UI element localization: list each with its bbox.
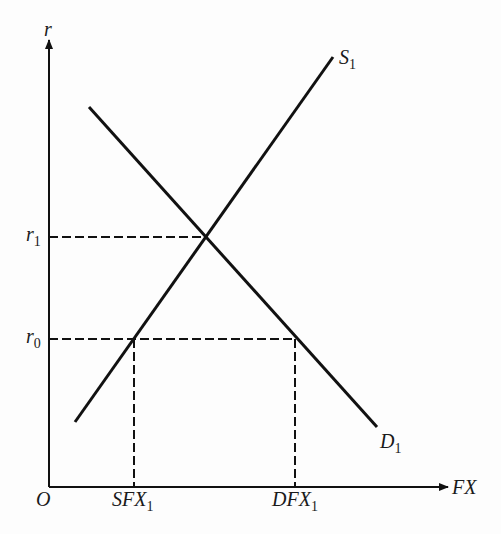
dfx1-label: DFX1 — [271, 488, 318, 514]
demand-curve-d1 — [89, 107, 377, 427]
y-axis-label: r — [44, 18, 52, 40]
r0-label: r0 — [26, 325, 41, 351]
fx-market-diagram: r FX O S1 D1 r1 r0 SFX1 DFX1 — [0, 0, 501, 534]
x-axis-label: FX — [451, 476, 477, 498]
d1-label: D1 — [379, 430, 401, 456]
sfx1-label: SFX1 — [112, 488, 153, 514]
r1-label: r1 — [26, 223, 41, 249]
origin-label: O — [36, 488, 50, 510]
s1-label: S1 — [339, 46, 356, 72]
